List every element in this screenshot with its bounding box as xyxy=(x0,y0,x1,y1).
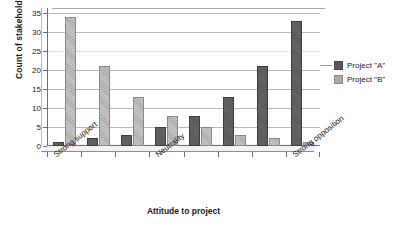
bar-chart: Count of stakeholders 05101520253035 Str… xyxy=(0,0,414,230)
bar-project-a[interactable] xyxy=(87,138,98,146)
legend-label-project-a: Project "A" xyxy=(347,61,385,70)
bar-project-b[interactable] xyxy=(235,135,246,146)
bar-project-a[interactable] xyxy=(121,135,132,146)
bar-group xyxy=(252,13,286,146)
bar-project-a[interactable] xyxy=(189,116,200,146)
chart-legend: Project "A" Project "B" xyxy=(334,58,412,86)
bar-project-b[interactable] xyxy=(201,127,212,146)
x-axis-category-labels: Strong supportNeutralityStrong oppositio… xyxy=(47,152,320,212)
y-axis-tick-mark xyxy=(43,146,47,147)
bar-project-b[interactable] xyxy=(133,97,144,146)
legend-item-project-b: Project "B" xyxy=(334,72,412,86)
bar-project-a[interactable] xyxy=(257,66,268,146)
bar-project-a[interactable] xyxy=(291,21,302,146)
bar-project-b[interactable] xyxy=(65,17,76,146)
legend-item-project-a: Project "A" xyxy=(334,58,412,72)
legend-label-project-b: Project "B" xyxy=(347,75,385,84)
legend-swatch-project-b xyxy=(334,75,343,84)
bar-project-a[interactable] xyxy=(223,97,234,146)
x-axis-title: Attitude to project xyxy=(47,206,320,216)
bar-group xyxy=(184,13,218,146)
bar-project-b[interactable] xyxy=(269,138,280,146)
bar-group xyxy=(149,13,183,146)
legend-swatch-project-a xyxy=(334,61,343,70)
bar-project-b[interactable] xyxy=(99,66,110,146)
bar-group xyxy=(286,13,320,146)
bar-group xyxy=(47,13,81,146)
bar-group xyxy=(218,13,252,146)
legend-leader-line-b xyxy=(320,65,332,66)
bar-group xyxy=(115,13,149,146)
y-axis-title: Count of stakeholders xyxy=(14,0,28,98)
